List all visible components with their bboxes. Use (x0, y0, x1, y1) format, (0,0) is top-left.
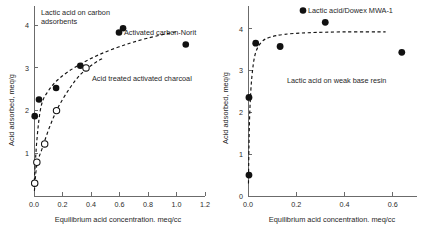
data-point (182, 41, 189, 48)
left-series-label-charcoal: Acid treated activated charcoal (92, 74, 192, 83)
left-x-tick-labels: 0.00.20.40.60.81.01.2 (29, 200, 210, 209)
left-panel-title-line1: Lactic acid on carbon (41, 8, 110, 17)
data-point (322, 19, 329, 26)
data-point (31, 113, 38, 120)
left-data-points-norit (31, 25, 189, 187)
data-point (41, 141, 47, 147)
x-tick-label: 0.6 (388, 200, 398, 209)
data-point (83, 65, 89, 71)
y-tick-label: 1 (239, 150, 243, 159)
data-point (53, 107, 59, 113)
x-tick-label: 0.0 (243, 200, 253, 209)
left-panel-title-line2: adsorbents (41, 17, 77, 26)
right-x-tick-labels: 0.00.20.40.6 (243, 200, 398, 209)
left-data-points-charcoal (32, 65, 90, 187)
left-y-axis-title: Acid adsorbed, meq/g (7, 74, 16, 146)
right-chart-svg: 0.00.20.40.6 01234 Equilibrium acid conc… (212, 0, 423, 228)
x-tick-label: 0.0 (29, 200, 39, 209)
y-tick-label: 4 (25, 21, 29, 30)
data-point (277, 43, 284, 50)
right-y-axis-title: Acid adsorbed, meq/g (221, 72, 230, 144)
x-tick-label: 0.2 (58, 200, 68, 209)
right-x-axis-title: Equilibrium acid concentration. meq/cc (269, 215, 396, 224)
right-series-label-dowex: Lactic acid/Dowex MWA-1 (308, 6, 393, 15)
data-point (252, 40, 259, 47)
y-tick-label: 3 (239, 66, 243, 75)
x-tick-label: 0.6 (115, 200, 125, 209)
x-tick-label: 1.2 (200, 200, 210, 209)
x-tick-label: 0.4 (340, 200, 350, 209)
data-point (53, 85, 60, 92)
y-tick-label: 2 (239, 108, 243, 117)
right-data-points-dowex (246, 19, 406, 179)
right-y-tick-labels: 01234 (239, 25, 243, 201)
left-y-tick-labels: 1234 (25, 21, 29, 158)
left-series-label-norit: Activated carbon-Norit (124, 28, 196, 37)
left-x-axis-title: Equilibrium acid concentration. meq/cc (55, 215, 182, 224)
right-axes (248, 6, 417, 196)
left-chart-svg: 0.00.20.40.60.81.01.2 1234 Equilibrium a… (0, 0, 211, 228)
right-tick-marks (248, 29, 393, 196)
x-tick-label: 1.0 (172, 200, 182, 209)
chart-panel-right: 0.00.20.40.6 01234 Equilibrium acid conc… (212, 0, 423, 228)
data-point (246, 94, 253, 101)
legend-bullet-norit (116, 29, 123, 36)
data-point (398, 49, 405, 56)
right-panel-subtitle: Lactic acid on weak base resin (287, 76, 386, 85)
data-point (32, 180, 38, 186)
figure-container: 0.00.20.40.60.81.01.2 1234 Equilibrium a… (0, 0, 423, 228)
legend-bullet-dowex (300, 7, 307, 14)
y-tick-label: 0 (239, 192, 243, 201)
y-tick-label: 2 (25, 106, 29, 115)
data-point (246, 172, 253, 179)
y-tick-label: 3 (25, 64, 29, 73)
right-fit-curve-dowex (248, 32, 385, 184)
x-tick-label: 0.2 (291, 200, 301, 209)
chart-panel-left: 0.00.20.40.60.81.01.2 1234 Equilibrium a… (0, 0, 211, 228)
right-plot-area: 0.00.20.40.6 01234 (239, 6, 417, 209)
data-point (34, 159, 40, 165)
y-tick-label: 4 (239, 25, 243, 34)
x-tick-label: 0.4 (86, 200, 96, 209)
y-tick-label: 1 (25, 149, 29, 158)
x-tick-label: 0.8 (143, 200, 153, 209)
data-point (36, 96, 43, 103)
